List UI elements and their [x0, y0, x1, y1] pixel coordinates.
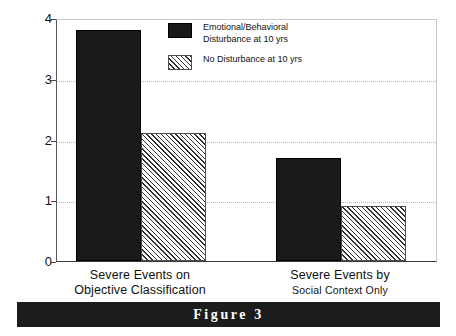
bar-solid-group-2 — [276, 158, 341, 261]
y-tick-label: 4 — [28, 12, 52, 25]
legend-swatch-hatched-icon — [168, 55, 192, 70]
y-tick-label: 2 — [28, 134, 52, 147]
legend-item-emotional-behavioral: Emotional/Behavioral Disturbance at 10 y… — [168, 22, 302, 45]
x-category-label-2: Severe Events bySocial Context Only — [230, 268, 450, 298]
legend-label-no-disturbance: No Disturbance at 10 yrs — [203, 54, 302, 66]
y-tick-label: 0 — [28, 255, 52, 268]
x-category-label-line2: Objective Classification — [30, 283, 250, 298]
legend: Emotional/Behavioral Disturbance at 10 y… — [168, 22, 302, 79]
y-tick-mark — [51, 262, 56, 263]
y-tick-label: 3 — [28, 73, 52, 86]
legend-swatch-solid-icon — [168, 23, 192, 38]
figure-3-bar-chart: Mean No. of Severe Events 01234 Emotiona… — [0, 0, 456, 336]
figure-caption-text: Figure 3 — [193, 307, 264, 323]
y-tick-label: 1 — [28, 194, 52, 207]
legend-item-no-disturbance: No Disturbance at 10 yrs — [168, 54, 302, 70]
x-category-label-1: Severe Events onObjective Classification — [30, 268, 250, 298]
legend-label-emotional-behavioral: Emotional/Behavioral Disturbance at 10 y… — [203, 22, 288, 45]
bar-hatched-group-2 — [341, 206, 406, 261]
x-category-label-line2: Social Context Only — [230, 283, 450, 298]
x-category-label-line1: Severe Events by — [230, 268, 450, 283]
x-category-label-line1: Severe Events on — [30, 268, 250, 283]
bar-hatched-group-1 — [141, 133, 206, 261]
bar-solid-group-1 — [76, 30, 141, 261]
figure-caption-banner: Figure 3 — [17, 302, 440, 327]
